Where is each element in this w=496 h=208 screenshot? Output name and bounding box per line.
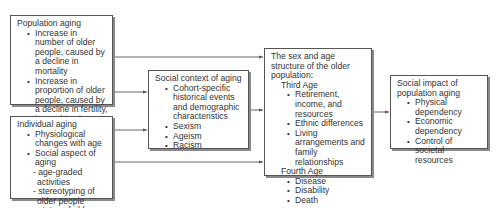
sub-list-item: - status of older people bbox=[17, 206, 108, 208]
list-item: Physiological changes with age bbox=[17, 130, 108, 149]
sub-list-item: - stereotyping of older people bbox=[17, 187, 108, 206]
list-item: Social aspect of aging bbox=[17, 149, 108, 168]
social-impact-box: Social impact of population aging Physic… bbox=[390, 75, 488, 149]
social-context-box: Social context of aging Cohort-specific … bbox=[148, 70, 249, 149]
list-item: Cohort-specific historical events and de… bbox=[155, 84, 244, 122]
list-item: Physical dependency bbox=[397, 98, 483, 117]
list-item: Living arrangements and family relations… bbox=[271, 129, 367, 167]
sex-age-structure-title: The sex and age structure of the older p… bbox=[271, 52, 367, 81]
list-item: Racism bbox=[155, 141, 244, 151]
list-item: Disability bbox=[271, 186, 367, 196]
sub-list-item: - age-graded activities bbox=[17, 168, 108, 187]
list-item: Ethnic differences bbox=[271, 119, 367, 129]
social-impact-title: Social impact of population aging bbox=[397, 79, 483, 98]
list-item: Control of societal resources bbox=[397, 137, 483, 166]
individual-aging-box: Individual aging Physiological changes w… bbox=[10, 116, 113, 199]
sex-age-structure-box: The sex and age structure of the older p… bbox=[264, 48, 372, 176]
population-aging-box: Population aging Increase in number of o… bbox=[10, 15, 113, 105]
list-item: Increase in number of older people, caus… bbox=[17, 29, 108, 77]
list-item: Death bbox=[271, 196, 367, 206]
list-item: Economic dependency bbox=[397, 117, 483, 136]
list-item: Retirement, income, and resources bbox=[271, 90, 367, 119]
